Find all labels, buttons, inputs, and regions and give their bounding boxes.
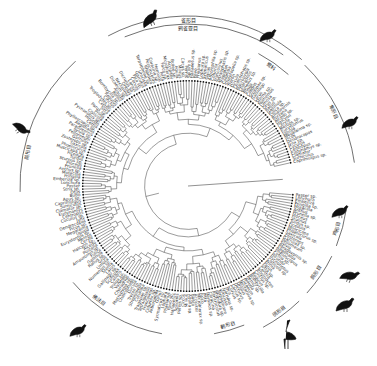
songbird-icon — [342, 117, 358, 130]
passerine-bird-icon — [139, 9, 161, 28]
tip-labels: Passer sp.LonchuraEmberizaFringilla sp.M… — [53, 48, 327, 325]
clade-arc-鸦雀亚目 — [125, 24, 284, 55]
clade-label: 佛法目 — [91, 293, 107, 308]
pigeon-bird-icon — [339, 267, 360, 285]
plover-bird-icon — [336, 298, 354, 312]
clade-label: 鸦雀亚目 — [178, 25, 198, 32]
clade-label: 鸻形目 — [271, 304, 287, 318]
tip-markers — [82, 80, 294, 292]
clade-label: 隼形目 — [327, 104, 340, 121]
clade-arc-雀形目 — [108, 16, 302, 60]
clade-label: 雀形目 — [181, 17, 196, 24]
clade-label: 鹭科 — [265, 61, 277, 72]
tree-branches — [84, 82, 292, 290]
clade-label: 鸽形目 — [309, 264, 323, 280]
wagtail-bird-icon — [260, 30, 276, 43]
phylogenetic-tree-figure: Passer sp.LonchuraEmberizaFringilla sp.M… — [0, 0, 377, 366]
roller-bird-icon — [70, 325, 86, 338]
pheasant-bird-icon — [332, 206, 348, 219]
crane-bird-icon — [284, 320, 296, 349]
